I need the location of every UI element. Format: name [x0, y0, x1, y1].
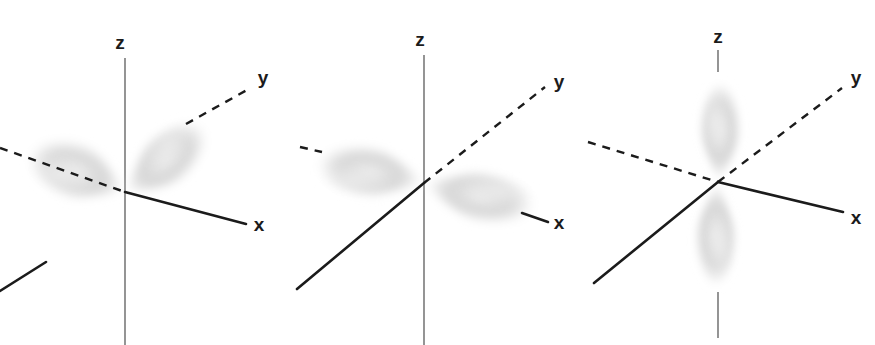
p-y-axis-label-y: y	[258, 67, 269, 88]
p-x-x-axis-solid-near	[297, 183, 424, 289]
p-z-y-axis-dashed-near	[588, 142, 718, 182]
p-y-axis-label-z: z	[115, 32, 125, 53]
p-z-x-axis-solid-far	[718, 182, 843, 212]
p-y-y-axis-dashed-far	[186, 90, 247, 124]
p-orbital-diagram-figure: z y x z y x	[0, 0, 875, 345]
p-x-axis-label-x: x	[554, 212, 565, 233]
p-y-x-axis-solid-near	[0, 262, 46, 291]
p-x-lobe-right	[418, 158, 541, 235]
orbital-p-y: z y x	[0, 32, 269, 345]
p-x-y-axis-dashed-far	[424, 87, 545, 183]
p-y-x-axis-solid-far	[125, 192, 246, 224]
p-x-lobe-left	[311, 136, 429, 208]
p-y-axis-label-x: x	[254, 214, 265, 235]
orbital-p-x: z y x	[297, 29, 565, 345]
p-z-axis-label-x: x	[851, 207, 862, 228]
p-x-axis-label-y: y	[554, 71, 565, 92]
p-x-y-axis-dashed-near	[300, 147, 322, 152]
p-z-lobe-top	[697, 81, 744, 182]
p-z-axis-label-z: z	[713, 26, 723, 47]
orbital-p-z: z y x	[588, 26, 862, 338]
orbital-diagrams-svg: z y x z y x	[0, 0, 875, 345]
p-x-axis-label-z: z	[415, 29, 425, 50]
p-z-axis-label-y: y	[851, 67, 862, 88]
p-y-lobe-lower-left	[17, 125, 136, 218]
